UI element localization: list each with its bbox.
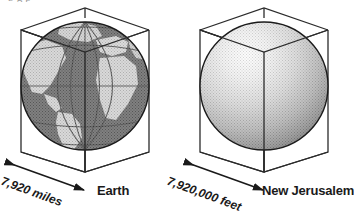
panel-new-jerusalem	[185, 8, 328, 190]
globe-icon	[20, 22, 152, 150]
figure-label-earth: Earth	[97, 183, 129, 198]
panel-earth	[6, 8, 152, 190]
figure-label-new-jerusalem: New Jerusalem	[262, 183, 354, 198]
